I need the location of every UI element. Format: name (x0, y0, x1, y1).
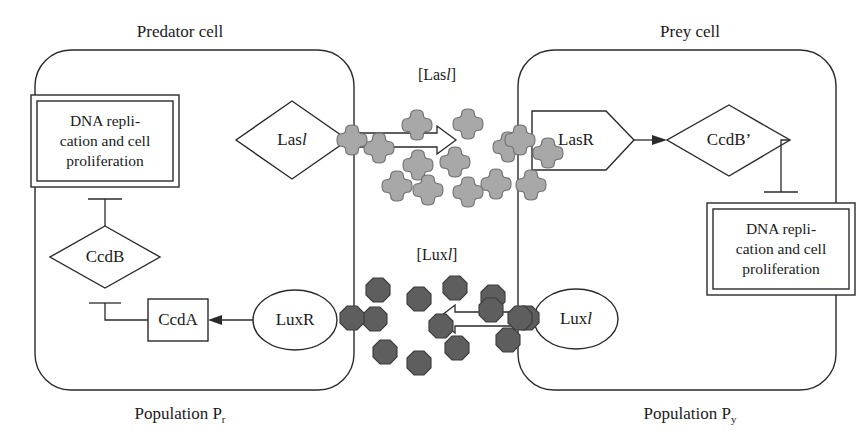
signal-molecule (382, 171, 412, 201)
membrane-bound-signal-molecule (337, 125, 367, 155)
arrowhead-luxr-ccda (208, 315, 222, 325)
population-right-subscript: y (731, 413, 737, 425)
prey-dna-line-1: DNA repli- (746, 220, 816, 237)
node-lasi-label: Lasl (277, 130, 307, 149)
node-luxr-label: LuxR (276, 310, 315, 329)
luxi-conc-prefix: [Lux (417, 246, 448, 263)
population-left-label: Population Pr (134, 404, 225, 425)
signal-molecule (496, 328, 520, 352)
node-luxi-label-italic: l (587, 309, 592, 328)
signal-molecule (516, 170, 546, 200)
signal-molecule (453, 109, 483, 139)
population-right-text: Population P (644, 404, 731, 423)
signal-molecule (366, 278, 390, 302)
node-luxi[interactable]: Luxl (534, 289, 618, 349)
signaling-diagram: Predator cell Prey cell DNA repli- catio… (0, 0, 866, 443)
node-ccda-label: CcdA (158, 310, 198, 329)
node-luxr[interactable]: LuxR (253, 290, 337, 350)
signal-molecule (445, 336, 469, 360)
node-luxi-label-prefix: Lux (560, 309, 588, 328)
edge-luxr-activates-ccda (208, 315, 253, 325)
lasi-conc-suffix: ] (451, 66, 456, 83)
edge-ccdb-inhibits-dna (88, 199, 122, 226)
lasi-concentration-label: [Lasl] (418, 66, 456, 83)
edge-ccda-inhibits-ccdb (89, 303, 148, 320)
arrowhead-lasr-ccdbp (652, 135, 667, 145)
signal-molecule (443, 276, 467, 300)
population-right-label: Population Py (644, 404, 737, 425)
predator-dna-box: DNA repli- cation and cell proliferation (31, 95, 179, 187)
predator-dna-line-3: proliferation (66, 152, 144, 169)
signal-molecule (363, 307, 387, 331)
node-ccdb-prime-label: CcdB’ (707, 130, 751, 149)
node-lasi[interactable]: Lasl (236, 101, 348, 179)
node-lasi-label-prefix: Las (277, 130, 302, 149)
predator-cell-title: Predator cell (137, 22, 224, 41)
edge-lasr-activates-ccdbp (634, 135, 667, 145)
signal-molecule (479, 298, 503, 322)
luxi-concentration-label: [Luxl] (417, 246, 458, 263)
membrane-bound-signal-molecule (340, 306, 364, 330)
node-ccda[interactable]: CcdA (148, 299, 208, 341)
population-left-subscript: r (222, 413, 226, 425)
node-lasi-label-italic: l (302, 130, 307, 149)
signal-molecule (440, 147, 470, 177)
signal-molecule (407, 287, 431, 311)
signal-molecule (373, 340, 397, 364)
prey-dna-box: DNA repli- cation and cell proliferation (707, 203, 855, 295)
signal-molecule (453, 177, 483, 207)
signal-molecule (429, 314, 453, 338)
node-ccdb-label: CcdB (86, 247, 125, 266)
lasi-molecule-pool (337, 109, 563, 207)
prey-dna-line-2: cation and cell (736, 240, 826, 257)
signal-molecule (407, 351, 431, 375)
luxi-conc-suffix: ] (452, 246, 457, 263)
node-lasr-label: LasR (558, 130, 595, 149)
prey-dna-line-3: proliferation (742, 260, 820, 277)
lasi-conc-prefix: [Las (418, 66, 446, 83)
predator-dna-line-1: DNA repli- (70, 112, 140, 129)
population-left-text: Population P (134, 404, 221, 423)
membrane-bound-signal-molecule (508, 306, 532, 330)
signal-molecule (481, 169, 511, 199)
node-ccdb[interactable]: CcdB (50, 226, 160, 288)
node-luxi-label: Luxl (560, 309, 592, 328)
prey-cell-title: Prey cell (660, 22, 720, 41)
node-ccdb-prime[interactable]: CcdB’ (667, 105, 790, 176)
figure-canvas: Predator cell Prey cell DNA repli- catio… (0, 0, 866, 443)
predator-dna-line-2: cation and cell (60, 132, 150, 149)
